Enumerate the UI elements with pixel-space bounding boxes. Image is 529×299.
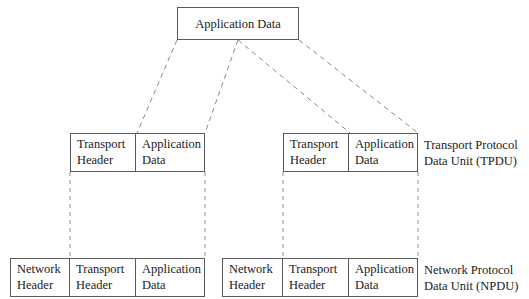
cell-application-data: Application Data	[136, 134, 204, 171]
cell-transport-header: Transport Header	[284, 134, 349, 171]
tpdu-label-line-2: Data Unit (TPDU)	[424, 153, 518, 169]
cell-line-2: Header	[290, 152, 343, 168]
cell-line-1: Application Data	[195, 16, 281, 32]
connector-top-to-right-inner	[238, 40, 350, 133]
tpdu-box-right: Transport Header Application Data	[283, 133, 418, 172]
tpdu-label: Transport Protocol Data Unit (TPDU)	[424, 137, 518, 169]
cell-network-header: Network Header	[11, 259, 70, 296]
connector-top-to-left-outer	[205, 40, 238, 133]
cell-application-data: Application Data	[349, 259, 417, 296]
cell-line-1: Transport	[289, 261, 343, 277]
cell-line-1: Transport	[290, 136, 343, 152]
npdu-label-line-2: Data Unit (NPDU)	[424, 278, 518, 294]
cell-line-2: Data	[142, 277, 199, 293]
tpdu-label-line-1: Transport Protocol	[424, 137, 518, 153]
cell-line-2: Header	[77, 152, 130, 168]
cell-line-1: Application	[355, 136, 412, 152]
cell-line-2: Header	[17, 277, 64, 293]
cell-application-data: Application Data	[136, 259, 204, 296]
npdu-box-left: Network Header Transport Header Applicat…	[10, 258, 205, 297]
application-data-box: Application Data	[177, 7, 299, 40]
cell-transport-header: Transport Header	[283, 259, 349, 296]
cell-line-1: Application	[142, 261, 199, 277]
cell-network-header: Network Header	[223, 259, 283, 296]
cell-line-2: Header	[76, 277, 130, 293]
tpdu-box-left: Transport Header Application Data	[70, 133, 205, 172]
diagram-canvas: Application Data Transport Header Applic…	[0, 0, 529, 299]
cell-line-1: Application	[355, 261, 412, 277]
cell-line-1: Network	[17, 261, 64, 277]
cell-line-2: Header	[229, 277, 277, 293]
cell-line-2: Header	[289, 277, 343, 293]
connector-top-to-right-outer	[299, 40, 418, 133]
cell-transport-header: Transport Header	[70, 259, 136, 296]
cell-application-data: Application Data	[349, 134, 417, 171]
npdu-label-line-1: Network Protocol	[424, 262, 518, 278]
cell-transport-header: Transport Header	[71, 134, 136, 171]
npdu-label: Network Protocol Data Unit (NPDU)	[424, 262, 518, 294]
cell-application-data: Application Data	[195, 16, 281, 32]
npdu-box-right: Network Header Transport Header Applicat…	[222, 258, 418, 297]
cell-line-2: Data	[355, 277, 412, 293]
cell-line-2: Data	[355, 152, 412, 168]
cell-line-1: Transport	[77, 136, 130, 152]
connector-top-to-left-inner	[137, 40, 177, 133]
cell-line-1: Application	[142, 136, 199, 152]
cell-line-1: Transport	[76, 261, 130, 277]
cell-line-1: Network	[229, 261, 277, 277]
cell-line-2: Data	[142, 152, 199, 168]
